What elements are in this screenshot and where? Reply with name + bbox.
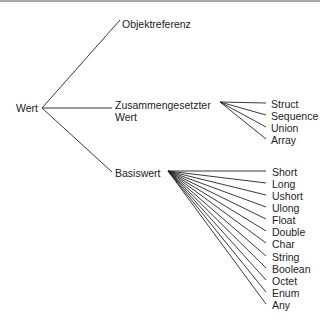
node-array: Array bbox=[271, 134, 296, 146]
node-char: Char bbox=[272, 238, 295, 250]
node-zusammengesetzter: Zusammengesetzter bbox=[115, 99, 211, 111]
node-wert: Wert bbox=[16, 102, 38, 114]
node-float: Float bbox=[272, 214, 295, 226]
node-double: Double bbox=[272, 226, 305, 238]
node-zusammengesetzter-line2: Wert bbox=[115, 111, 137, 123]
node-enum: Enum bbox=[272, 287, 299, 299]
node-objektreferenz: Objektreferenz bbox=[122, 18, 191, 30]
node-basiswert: Basiswert bbox=[115, 167, 161, 179]
node-ushort: Ushort bbox=[272, 190, 303, 202]
node-octet: Octet bbox=[272, 275, 297, 287]
node-ulong: Ulong bbox=[272, 202, 299, 214]
node-sequence: Sequence bbox=[271, 110, 318, 122]
node-struct: Struct bbox=[271, 98, 298, 110]
node-union: Union bbox=[271, 122, 298, 134]
node-boolean: Boolean bbox=[272, 263, 311, 275]
node-long: Long bbox=[272, 178, 295, 190]
node-short: Short bbox=[272, 166, 297, 178]
node-any: Any bbox=[272, 299, 290, 311]
node-string: String bbox=[272, 251, 299, 263]
